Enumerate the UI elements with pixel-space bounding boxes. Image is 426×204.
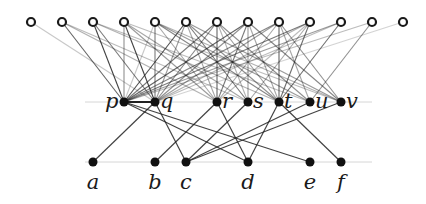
- middle-to-bottom-edges: [93, 102, 341, 162]
- top-node-t10: [306, 18, 314, 26]
- node-s: [244, 98, 253, 107]
- node-d: [244, 158, 253, 167]
- node-v: [337, 98, 346, 107]
- node-label-d: d: [241, 170, 254, 194]
- top-node-t7: [213, 18, 221, 26]
- top-node-t3: [89, 18, 97, 26]
- edge-s-c: [186, 102, 248, 162]
- node-label-e: e: [304, 170, 316, 194]
- node-label-u: u: [315, 89, 329, 113]
- top-node-t2: [58, 18, 66, 26]
- bottom-row-nodes: abcdef: [87, 158, 348, 195]
- top-node-t1: [27, 18, 35, 26]
- top-node-t8: [244, 18, 252, 26]
- node-q: [151, 98, 160, 107]
- node-a: [89, 158, 98, 167]
- node-label-p: p: [105, 89, 118, 113]
- top-node-t6: [182, 18, 190, 26]
- node-label-q: q: [160, 89, 173, 113]
- top-node-t5: [151, 18, 159, 26]
- node-label-b: b: [148, 170, 161, 194]
- node-label-a: a: [87, 170, 100, 194]
- node-f: [337, 158, 346, 167]
- node-label-s: s: [253, 89, 264, 113]
- node-label-f: f: [335, 170, 348, 194]
- top-row-nodes: [27, 18, 407, 26]
- node-p: [120, 98, 129, 107]
- node-label-c: c: [180, 170, 192, 194]
- node-t: [275, 98, 284, 107]
- edge-q-a: [93, 102, 155, 162]
- node-e: [306, 158, 315, 167]
- top-node-t4: [120, 18, 128, 26]
- graph-diagram: pqrstuv abcdef: [0, 0, 426, 204]
- node-label-r: r: [222, 89, 234, 113]
- top-node-t13: [399, 18, 407, 26]
- node-r: [213, 98, 222, 107]
- top-node-t11: [337, 18, 345, 26]
- graph-svg: pqrstuv abcdef: [0, 0, 426, 204]
- node-b: [151, 158, 160, 167]
- top-node-t12: [368, 18, 376, 26]
- node-u: [306, 98, 315, 107]
- node-label-t: t: [284, 89, 293, 113]
- node-label-v: v: [346, 89, 358, 113]
- node-c: [182, 158, 191, 167]
- top-node-t9: [275, 18, 283, 26]
